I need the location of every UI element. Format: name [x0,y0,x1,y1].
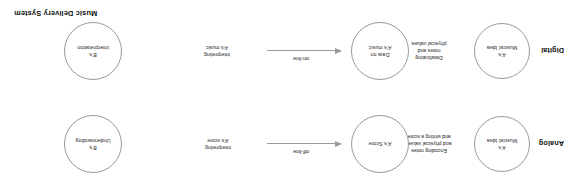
arrow-line [267,50,341,51]
arrow-head-icon [335,49,342,55]
node-data-on-music-digital: Data on A's music [351,22,409,80]
node-label: B's interpretation [71,44,115,58]
arrow-line [267,143,341,144]
row-analog: A's Musical Idea Encoding notes and phys… [0,93,574,186]
node-understanding-analog: B's Understanding [64,115,122,173]
mode-label-analog: Analog [539,139,564,148]
node-label: A's Musical Idea [481,44,523,58]
node-label: A's Score [363,141,398,148]
diagram-canvas: A's Musical Idea Encoding notes and phys… [0,0,574,186]
node-interpretation-digital: B's interpretation [64,22,122,80]
node-label: Data on A's music [363,44,398,58]
step-interpreting-digital: interpreting A's music [182,44,252,58]
arrow-caption: off-line [281,148,321,155]
diagram-title: Music Delivery System [14,9,97,18]
music-delivery-system-figure: A's Musical Idea Encoding notes and phys… [0,0,574,186]
mode-label-digital: Digital [541,46,564,55]
step-interpreting-analog: interpreting A's score [182,137,254,151]
arrow-head-icon [335,142,342,148]
node-musical-idea-analog: A's Musical Idea [474,116,530,172]
node-label: B's Understanding [69,137,116,151]
node-score-analog: A's Score [351,115,409,173]
node-label: A's Musical Idea [481,137,523,151]
node-musical-idea-digital: A's Musical Idea [474,23,530,79]
arrow-caption: on-line [281,55,321,62]
